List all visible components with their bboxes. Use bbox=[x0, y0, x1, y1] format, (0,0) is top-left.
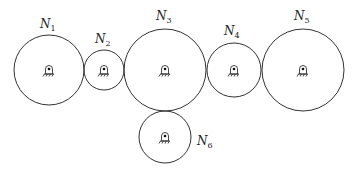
gear-label-subscript: 5 bbox=[305, 16, 310, 25]
gear-train-diagram: N1N2N3N4N5N6 bbox=[0, 0, 359, 175]
gear-label-subscript: 1 bbox=[51, 24, 56, 33]
pivot-support-icon bbox=[159, 66, 170, 77]
gear-label: N1 bbox=[39, 17, 56, 33]
gear-n4: N4 bbox=[207, 24, 261, 97]
gear-label: N6 bbox=[196, 134, 213, 150]
pivot-support-icon bbox=[98, 66, 109, 77]
gear-label-subscript: 2 bbox=[106, 39, 111, 48]
gear-n2: N2 bbox=[84, 32, 124, 90]
gear-label: N4 bbox=[223, 24, 240, 40]
gear-label: N3 bbox=[155, 9, 172, 25]
gear-label-subscript: 4 bbox=[235, 31, 240, 40]
gear-label: N2 bbox=[94, 32, 111, 48]
pivot-support-icon bbox=[159, 133, 170, 144]
gear-label-subscript: 3 bbox=[167, 16, 172, 25]
pivot-support-icon bbox=[228, 66, 239, 77]
gear-n5: N5 bbox=[262, 9, 344, 111]
gear-n1: N1 bbox=[14, 17, 84, 105]
gear-label: N5 bbox=[293, 9, 310, 25]
pivot-support-icon bbox=[297, 66, 308, 77]
gear-label-subscript: 6 bbox=[208, 141, 213, 150]
gear-n6: N6 bbox=[139, 111, 213, 163]
gear-n3: N3 bbox=[124, 9, 206, 111]
pivot-support-icon bbox=[43, 66, 54, 77]
